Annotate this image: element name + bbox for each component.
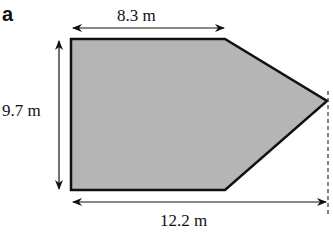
- pentagon-shape: [71, 39, 327, 190]
- diagram-canvas: a 8.3 m 9.7 m 12.2 m: [0, 0, 333, 236]
- height-label: 9.7 m: [2, 102, 41, 119]
- diagram-svg: [0, 0, 333, 236]
- part-label: a: [2, 4, 13, 24]
- total-length-label: 12.2 m: [160, 212, 207, 229]
- top-length-label: 8.3 m: [117, 7, 156, 24]
